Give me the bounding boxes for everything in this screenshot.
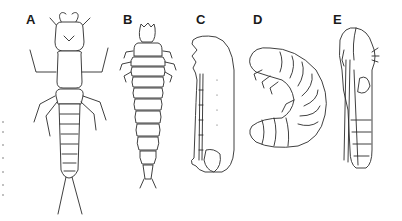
- illustration-canvas: [0, 0, 402, 221]
- larva-d-illustration: [250, 48, 327, 148]
- larva-a-illustration: [30, 12, 108, 214]
- larva-b-illustration: [120, 23, 176, 188]
- pupa-e-illustration: [339, 28, 379, 168]
- larva-c-illustration: [191, 36, 234, 172]
- margin-marks: [2, 121, 3, 195]
